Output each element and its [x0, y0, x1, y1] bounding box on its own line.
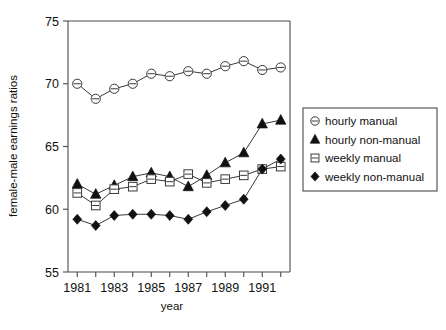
x-tick-label: 1981 [63, 281, 91, 295]
line-chart: 5560657075 198119831985198719891991 hour… [0, 0, 446, 330]
legend-item[interactable]: weekly manual [311, 152, 401, 164]
y-tick-label: 70 [45, 77, 59, 91]
legend-item-label: hourly manual [325, 115, 397, 127]
y-tick-label: 75 [45, 15, 59, 29]
chart-legend: hourly manualhourly non-manualweekly man… [303, 108, 437, 191]
y-tick-label: 55 [45, 266, 59, 280]
y-tick-label: 60 [45, 203, 59, 217]
x-axis-label: year [161, 300, 184, 312]
legend-item[interactable]: weekly non-manual [311, 171, 424, 183]
x-tick-label: 1985 [137, 281, 165, 295]
legend-item-label: weekly non-manual [324, 171, 424, 183]
legend-item[interactable]: hourly non-manual [310, 134, 420, 146]
chart-root: 5560657075 198119831985198719891991 hour… [0, 0, 446, 330]
y-axis-label: female-male earnings ratios [7, 75, 19, 217]
legend-item-label: hourly non-manual [325, 134, 420, 146]
x-tick-label: 1991 [248, 281, 276, 295]
x-tick-label: 1983 [100, 281, 128, 295]
x-tick-label: 1989 [211, 281, 239, 295]
x-tick-label: 1987 [174, 281, 202, 295]
legend-item-label: weekly manual [324, 152, 401, 164]
y-tick-label: 65 [45, 140, 59, 154]
